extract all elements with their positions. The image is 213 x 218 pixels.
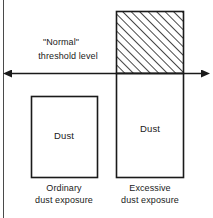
diagram-canvas — [0, 0, 213, 218]
bar-ordinary-caption-line-2: dust exposure — [35, 195, 93, 206]
bar-excessive-inner-label: Dust — [140, 123, 160, 134]
bar-ordinary-caption-line-1: Ordinary — [46, 183, 81, 194]
threshold-label-line-2: threshold level — [38, 51, 98, 62]
bar-excessive-hatched-top — [117, 12, 184, 74]
threshold-label-line-1: "Normal" — [43, 37, 79, 48]
bar-excessive-caption-line-1: Excessive — [129, 183, 170, 194]
dust-exposure-diagram: "Normal" threshold level Dust Dust Ordin… — [0, 0, 213, 218]
bar-ordinary-inner-label: Dust — [54, 130, 74, 141]
bar-excessive-caption-line-2: dust exposure — [121, 195, 179, 206]
